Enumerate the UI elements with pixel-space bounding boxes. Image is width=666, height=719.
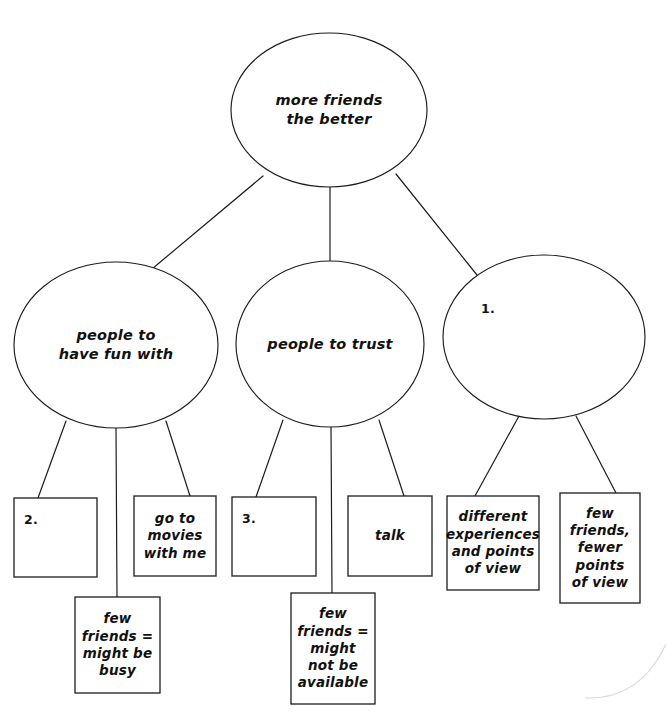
connector-branch-unlabeled-to-leaf-fewer-points [576,416,616,493]
node-shape-leaf-movies[interactable] [134,496,216,576]
connector-branch-fun-to-leaf-busy [116,428,117,597]
node-shape-leaf-3[interactable] [232,497,316,576]
connector-branch-fun-to-leaf-movies [166,421,190,496]
node-shape-root[interactable] [231,33,427,187]
connector-root-to-branch-fun [146,176,263,274]
concept-map-svg [0,0,666,719]
node-shape-layer [14,33,645,704]
node-shape-leaf-different-experiences[interactable] [447,496,539,590]
node-shape-leaf-2[interactable] [14,498,97,577]
connector-branch-trust-to-leaf-talk [379,420,404,496]
diagram-canvas: more friends the betterpeople to have fu… [0,0,666,719]
node-shape-leaf-busy[interactable] [75,597,160,693]
connector-branch-unlabeled-to-leaf-different-experiences [475,416,519,496]
artifact-layer [585,644,666,698]
node-shape-leaf-not-available[interactable] [291,593,375,704]
node-shape-branch-fun[interactable] [14,262,218,428]
node-shape-branch-trust[interactable] [236,261,424,427]
connector-branch-trust-to-leaf-3 [256,420,283,497]
node-shape-branch-unlabeled[interactable] [443,255,645,419]
connector-branch-trust-to-leaf-not-available [331,427,332,593]
node-shape-leaf-fewer-points[interactable] [560,493,640,603]
scan-arc [585,644,666,698]
connector-root-to-branch-unlabeled [396,174,477,275]
node-shape-leaf-talk[interactable] [348,496,432,576]
connector-branch-fun-to-leaf-2 [38,421,66,498]
